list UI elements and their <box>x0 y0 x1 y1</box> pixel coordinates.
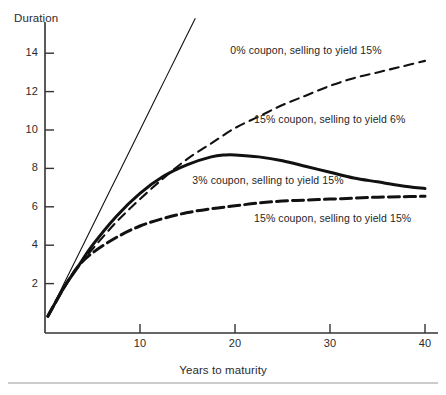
series-annotation-3: 3% coupon, selling to yield 15% <box>192 174 343 186</box>
y-tick-label: 8 <box>12 161 38 173</box>
series-annotation-4: 15% coupon, selling to yield 15% <box>254 212 411 224</box>
y-tick-label: 6 <box>12 200 38 212</box>
series-line-2 <box>48 61 425 316</box>
y-tick-label: 14 <box>12 46 38 58</box>
y-tick-label: 10 <box>12 123 38 135</box>
x-tick-label: 40 <box>410 337 440 349</box>
x-tick-label: 30 <box>315 337 345 349</box>
y-tick-label: 2 <box>12 277 38 289</box>
series-line-1 <box>48 19 195 317</box>
curves-group <box>48 19 425 317</box>
chart-canvas <box>0 0 446 395</box>
y-tick-label: 12 <box>12 85 38 97</box>
series-annotation-1: 0% coupon, selling to yield 15% <box>230 44 381 56</box>
duration-vs-maturity-figure: Duration Years to maturity 2468101214102… <box>0 0 446 395</box>
x-tick-label: 20 <box>220 337 250 349</box>
x-tick-label: 10 <box>125 337 155 349</box>
y-tick-label: 4 <box>12 238 38 250</box>
series-annotation-2: 15% coupon, selling to yield 6% <box>254 113 405 125</box>
